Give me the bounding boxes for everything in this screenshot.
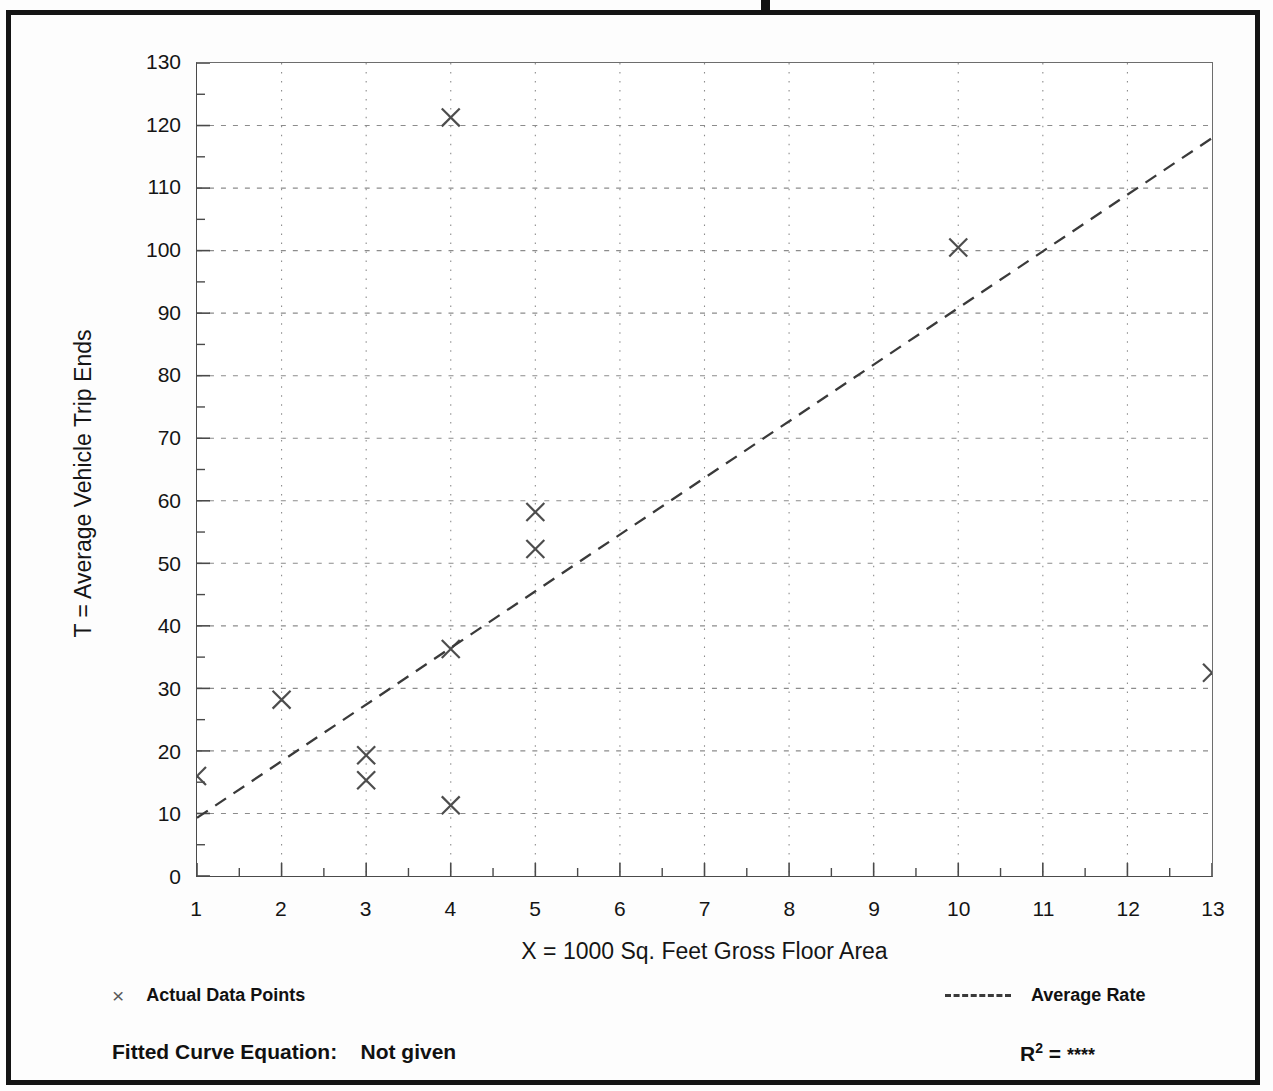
- y-axis-tick-label: 50: [76, 552, 181, 576]
- r-squared-number: ****: [1067, 1045, 1095, 1065]
- x-marker-icon: ×: [112, 985, 124, 1006]
- data-point-marker: [949, 239, 967, 257]
- y-axis-tick-label: 90: [76, 301, 181, 325]
- x-axis-tick-label: 6: [614, 897, 626, 921]
- x-axis-tick-label: 5: [529, 897, 541, 921]
- y-axis-tick-label: 120: [76, 113, 181, 137]
- fitted-curve-equation-value: Not given: [361, 1040, 457, 1063]
- fitted-curve-equation: Fitted Curve Equation: Not given: [112, 1040, 456, 1064]
- y-axis-tick-label: 30: [76, 677, 181, 701]
- x-axis-tick-label: 10: [947, 897, 970, 921]
- x-axis-tick-label: 2: [275, 897, 287, 921]
- y-axis-tick-label: 40: [76, 614, 181, 638]
- x-axis-title: X = 1000 Sq. Feet Gross Floor Area: [196, 938, 1213, 965]
- data-point-marker: [526, 540, 544, 558]
- average-rate-trend-line: [197, 138, 1212, 818]
- x-axis-tick-label: 11: [1033, 897, 1055, 921]
- plot-area: [196, 62, 1213, 877]
- y-axis-tick-label: 60: [76, 489, 181, 513]
- data-point-marker: [526, 503, 544, 521]
- x-axis-tick-label: 1: [190, 897, 202, 921]
- x-axis-tick-label: 7: [699, 897, 711, 921]
- x-axis-tick-label: 8: [783, 897, 795, 921]
- r-squared-equals: =: [1049, 1042, 1061, 1065]
- y-axis-tick-label: 20: [76, 740, 181, 764]
- x-axis-tick-label: 4: [444, 897, 456, 921]
- fitted-curve-equation-label: Fitted Curve Equation:: [112, 1040, 337, 1063]
- x-axis-tick-label: 13: [1201, 897, 1224, 921]
- scanned-page: T = Average Vehicle Trip Ends 0102030405…: [0, 0, 1273, 1091]
- data-point-marker: [197, 767, 206, 785]
- x-axis-tick-label: 9: [868, 897, 880, 921]
- y-axis-tick-label: 110: [76, 175, 181, 199]
- y-axis-tick-label: 10: [76, 802, 181, 826]
- y-axis-tick-label: 0: [76, 865, 181, 889]
- legend-item-average-rate: Average Rate: [945, 985, 1145, 1006]
- x-axis-tick-label: 3: [360, 897, 372, 921]
- y-axis-tick-label: 80: [76, 363, 181, 387]
- y-axis-tick-label: 70: [76, 426, 181, 450]
- dashed-line-icon: [945, 994, 1011, 997]
- legend-item-actual-data-points: × Actual Data Points: [112, 985, 305, 1006]
- r-squared-value: R2 = ****: [1020, 1040, 1095, 1066]
- y-axis-tick-label: 130: [76, 50, 181, 74]
- data-point-marker: [273, 691, 291, 709]
- data-point-marker: [357, 771, 375, 789]
- legend-label-actual-data-points: Actual Data Points: [146, 985, 305, 1006]
- data-point-marker: [442, 796, 460, 814]
- legend-label-average-rate: Average Rate: [1031, 985, 1145, 1006]
- r-squared-label: R: [1020, 1042, 1035, 1065]
- data-point-marker: [1203, 664, 1212, 682]
- data-layer: [197, 63, 1212, 876]
- data-point-marker: [442, 108, 460, 126]
- data-point-marker: [357, 746, 375, 764]
- r-squared-exponent: 2: [1035, 1040, 1043, 1056]
- x-axis-tick-label: 12: [1117, 897, 1140, 921]
- y-axis-tick-label: 100: [76, 238, 181, 262]
